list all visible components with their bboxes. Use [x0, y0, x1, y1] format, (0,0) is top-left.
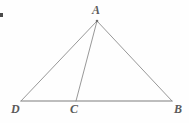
vertex-label-d: D: [11, 103, 20, 115]
triangle-diagram-svg: [0, 0, 189, 123]
vertex-label-c: C: [70, 103, 78, 115]
vertex-label-b: B: [174, 103, 182, 115]
segment-AC: [76, 21, 97, 101]
geometry-figure: A D C B: [0, 0, 189, 123]
vertex-point-A: [96, 20, 99, 23]
vertex-label-a: A: [92, 4, 100, 16]
segment-AB: [97, 21, 172, 101]
segment-AD: [21, 21, 97, 101]
